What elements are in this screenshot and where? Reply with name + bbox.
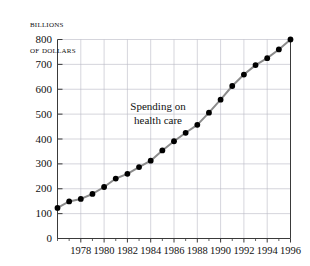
data-point-marker: [159, 148, 165, 154]
health-care-spending-chart: Billions of dollars Spending on health c…: [0, 0, 310, 266]
data-point-marker: [276, 47, 282, 53]
data-point-marker: [264, 55, 270, 61]
data-point-marker: [66, 199, 72, 205]
y-tick-label: 400: [26, 134, 52, 145]
data-point-marker: [136, 164, 142, 170]
y-tick-label: 600: [26, 84, 52, 95]
data-point-marker: [171, 138, 177, 144]
y-axis-title-line-1: Billions: [30, 17, 150, 30]
data-point-marker: [125, 171, 131, 177]
y-tick-label: 500: [26, 109, 52, 120]
y-tick-label: 0: [26, 233, 52, 244]
annotation-line-1: Spending on: [110, 100, 206, 114]
y-tick-label: 300: [26, 158, 52, 169]
x-tick-label: 1996: [274, 245, 308, 256]
data-point-marker: [229, 83, 235, 89]
annotation-line-2: health care: [110, 114, 206, 128]
data-point-marker: [101, 184, 107, 190]
data-point-marker: [253, 62, 259, 68]
data-point-marker: [241, 72, 247, 78]
y-tick-label: 200: [26, 183, 52, 194]
data-point-marker: [90, 191, 96, 197]
data-point-marker: [55, 205, 61, 211]
data-point-marker: [78, 196, 84, 202]
data-point-marker: [183, 130, 189, 136]
data-point-marker: [206, 110, 212, 116]
series-annotation: Spending on health care: [110, 100, 206, 127]
y-tick-label: 700: [26, 59, 52, 70]
data-point-marker: [218, 97, 224, 103]
data-point-marker: [288, 37, 294, 43]
y-tick-label: 800: [26, 34, 52, 45]
y-tick-label: 100: [26, 208, 52, 219]
data-point-marker: [148, 158, 154, 164]
data-point-marker: [113, 176, 119, 182]
